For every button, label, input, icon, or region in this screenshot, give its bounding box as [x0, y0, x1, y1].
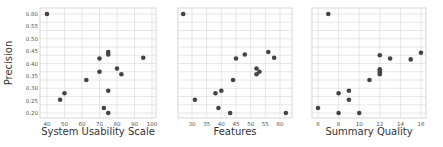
x-axis-label: Features — [214, 126, 257, 137]
data-point — [181, 12, 186, 17]
scatter-panel-summary-quality: 6810121416Summary Quality — [312, 8, 426, 137]
data-point — [84, 78, 89, 83]
data-point — [102, 106, 107, 111]
data-point — [97, 56, 102, 61]
y-tick-label: 0.35 — [26, 73, 39, 79]
y-tick-label: 0.50 — [26, 36, 39, 42]
data-point — [97, 69, 102, 74]
data-point — [228, 111, 233, 116]
data-point — [219, 88, 224, 93]
y-tick-label: 0.45 — [26, 48, 39, 54]
plot-area — [312, 8, 426, 118]
data-point — [266, 50, 271, 55]
data-point — [213, 91, 218, 96]
data-point — [234, 56, 239, 61]
data-point — [316, 106, 321, 111]
data-point — [347, 98, 352, 103]
x-tick-label: 35 — [203, 121, 210, 127]
data-point — [45, 12, 50, 17]
plot-area — [40, 8, 156, 118]
x-axis-label: Summary Quality — [325, 126, 412, 137]
scatter-figure: 4050607080901000.800.550.500.450.400.350… — [0, 0, 443, 147]
y-tick-label: 0.40 — [26, 61, 39, 67]
y-tick-label: 0.80 — [26, 11, 39, 17]
x-tick-label: 30 — [189, 121, 196, 127]
data-point — [336, 111, 341, 116]
x-tick-label: 16 — [418, 121, 425, 127]
x-tick-label: 60 — [277, 121, 284, 127]
data-point — [106, 52, 111, 57]
y-tick-label: 0.30 — [26, 85, 39, 91]
data-point — [378, 53, 383, 58]
data-point — [254, 72, 259, 77]
data-point — [119, 72, 124, 77]
data-point — [357, 111, 362, 116]
data-point — [58, 98, 63, 103]
data-point — [243, 52, 248, 57]
data-point — [106, 88, 111, 93]
data-point — [336, 91, 341, 96]
data-point — [115, 66, 120, 71]
data-point — [272, 55, 277, 60]
data-point — [378, 72, 383, 77]
data-point — [62, 91, 67, 96]
y-tick-label: 0.20 — [26, 110, 39, 116]
data-point — [216, 106, 221, 111]
scatter-panel-features: 30354045505560Features — [178, 8, 292, 137]
data-point — [193, 98, 198, 103]
data-point — [284, 111, 289, 116]
y-tick-label: 0.55 — [26, 23, 39, 29]
data-point — [419, 50, 424, 55]
data-point — [347, 88, 352, 93]
x-tick-label: 6 — [316, 121, 320, 127]
scatter-panel-system-usability-scale: 4050607080901000.800.550.500.450.400.350… — [26, 8, 158, 137]
data-point — [106, 111, 111, 116]
x-axis-label: System Usability Scale — [41, 126, 155, 137]
y-axis-label: Precision — [3, 41, 14, 86]
data-point — [326, 12, 331, 17]
data-point — [141, 55, 146, 60]
data-point — [367, 78, 372, 83]
x-tick-label: 55 — [262, 121, 269, 127]
y-tick-label: 0.25 — [26, 98, 39, 104]
data-point — [231, 78, 236, 83]
data-point — [408, 57, 413, 62]
data-point — [388, 56, 393, 61]
